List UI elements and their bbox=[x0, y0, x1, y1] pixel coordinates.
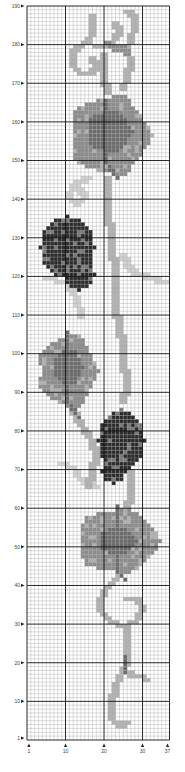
stitch bbox=[77, 377, 81, 381]
stitch bbox=[62, 230, 66, 234]
stitch bbox=[85, 261, 89, 265]
stitch bbox=[85, 520, 89, 524]
stitch bbox=[100, 164, 104, 168]
stitch bbox=[119, 562, 123, 566]
stitch bbox=[127, 126, 131, 130]
stitch bbox=[119, 164, 123, 168]
stitch bbox=[66, 346, 70, 350]
stitch bbox=[119, 431, 123, 435]
stitch bbox=[104, 99, 108, 103]
stitch bbox=[108, 191, 112, 195]
stitch bbox=[81, 427, 85, 431]
stitch bbox=[100, 118, 104, 122]
stitch bbox=[135, 431, 139, 435]
stitch bbox=[100, 562, 104, 566]
stitch bbox=[127, 539, 131, 543]
stitch bbox=[116, 269, 120, 273]
stitch bbox=[123, 663, 127, 667]
stitch bbox=[108, 257, 112, 261]
stitch bbox=[104, 168, 108, 172]
stitch bbox=[69, 222, 73, 226]
stitch bbox=[77, 315, 81, 319]
stitch bbox=[116, 122, 120, 126]
stitch bbox=[104, 528, 108, 532]
stitch bbox=[104, 153, 108, 157]
stitch bbox=[104, 203, 108, 207]
stitch bbox=[112, 562, 116, 566]
stitch bbox=[69, 253, 73, 257]
stitch bbox=[108, 585, 112, 589]
stitch bbox=[131, 497, 135, 501]
stitch bbox=[58, 218, 62, 222]
stitch bbox=[127, 377, 131, 381]
stitch bbox=[116, 547, 120, 551]
stitch bbox=[154, 539, 158, 543]
stitch bbox=[112, 300, 116, 304]
stitch bbox=[123, 539, 127, 543]
stitch bbox=[123, 381, 127, 385]
y-tick-label: 80 bbox=[14, 428, 20, 434]
stitch bbox=[96, 369, 100, 373]
stitch bbox=[139, 122, 143, 126]
stitch bbox=[135, 558, 139, 562]
stitch bbox=[104, 446, 108, 450]
stitch bbox=[96, 524, 100, 528]
stitch bbox=[77, 184, 81, 188]
stitch bbox=[54, 392, 58, 396]
stitch bbox=[89, 164, 93, 168]
stitch bbox=[81, 315, 85, 319]
stitch bbox=[123, 597, 127, 601]
stitch bbox=[58, 273, 62, 277]
stitch bbox=[73, 265, 77, 269]
stitch bbox=[116, 296, 120, 300]
stitch bbox=[158, 280, 162, 284]
stitch bbox=[89, 276, 93, 280]
stitch bbox=[92, 477, 96, 481]
stitch bbox=[42, 388, 46, 392]
stitch bbox=[89, 33, 93, 37]
stitch bbox=[116, 126, 120, 130]
stitch bbox=[116, 624, 120, 628]
stitch bbox=[112, 701, 116, 705]
stitch bbox=[139, 273, 143, 277]
stitch bbox=[127, 385, 131, 389]
stitch bbox=[73, 222, 77, 226]
stitch bbox=[85, 369, 89, 373]
stitch bbox=[108, 616, 112, 620]
stitch bbox=[146, 273, 150, 277]
stitch bbox=[89, 539, 93, 543]
stitch bbox=[139, 153, 143, 157]
stitch bbox=[116, 133, 120, 137]
stitch bbox=[123, 377, 127, 381]
stitch bbox=[73, 466, 77, 470]
stitch bbox=[92, 64, 96, 68]
stitch bbox=[69, 365, 73, 369]
stitch bbox=[66, 230, 70, 234]
stitch bbox=[112, 99, 116, 103]
stitch bbox=[81, 41, 85, 45]
stitch bbox=[123, 558, 127, 562]
stitch bbox=[58, 269, 62, 273]
stitch bbox=[112, 458, 116, 462]
stitch bbox=[108, 234, 112, 238]
stitch bbox=[116, 45, 120, 49]
stitch bbox=[73, 68, 77, 72]
x-tick-label: 10 bbox=[63, 748, 69, 754]
stitch bbox=[100, 543, 104, 547]
stitch bbox=[77, 153, 81, 157]
stitch bbox=[104, 122, 108, 126]
stitch bbox=[123, 435, 127, 439]
stitch bbox=[112, 48, 116, 52]
stitch bbox=[104, 516, 108, 520]
stitch bbox=[131, 114, 135, 118]
stitch bbox=[104, 419, 108, 423]
stitch bbox=[123, 520, 127, 524]
stitch bbox=[119, 346, 123, 350]
stitch bbox=[135, 562, 139, 566]
stitch bbox=[89, 238, 93, 242]
stitch bbox=[104, 114, 108, 118]
stitch bbox=[50, 342, 54, 346]
stitch bbox=[85, 164, 89, 168]
stitch bbox=[85, 388, 89, 392]
stitch bbox=[119, 439, 123, 443]
